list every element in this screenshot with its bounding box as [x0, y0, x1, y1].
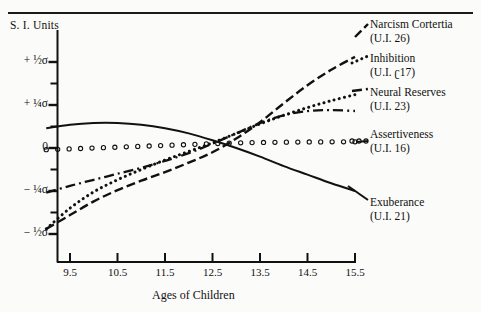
legend-ui-code: (U.I. 26): [370, 32, 453, 46]
series-marker: [284, 140, 288, 144]
y-axis-tick-label: − ¼σ: [6, 183, 48, 195]
legend-leader-line: [355, 24, 368, 37]
x-axis-ticks: [70, 253, 355, 262]
data-series-layer: [44, 57, 357, 229]
y-axis-tick-label: 0: [6, 140, 48, 152]
series-assertiveness: [44, 140, 357, 152]
legend-leader-line: [356, 141, 368, 142]
series-marker: [341, 140, 345, 144]
series-marker: [67, 147, 71, 151]
legend-entry-exuberance: Exuberance(U.I. 21): [370, 196, 424, 223]
x-axis-tick-label: 11.5: [145, 266, 185, 278]
series-inhibition: [46, 95, 355, 229]
series-marker: [136, 144, 140, 148]
series-marker: [101, 146, 105, 150]
legend-entry-neural-reserves: Neural Reserves(U.I. 23): [370, 86, 446, 113]
legend-ui-code: (U.I. 21): [370, 210, 424, 224]
legend-key-lines: [348, 24, 368, 200]
legend-ui-code: (U.I. ʗ17): [370, 66, 415, 80]
legend-label: Narcism Cortertia: [370, 18, 453, 30]
series-marker: [250, 141, 254, 145]
legend-label: Exuberance: [370, 196, 424, 208]
legend-label: Assertiveness: [370, 128, 433, 140]
series-marker: [296, 140, 300, 144]
legend-entry-narcism-cortertia: Narcism Cortertia(U.I. 26): [370, 18, 453, 45]
series-marker: [193, 142, 197, 146]
series-marker: [181, 143, 185, 147]
x-axis-tick-label: 12.5: [193, 266, 233, 278]
legend-ui-code: (U.I. 23): [370, 100, 446, 114]
x-axis-tick-label: 13.5: [240, 266, 280, 278]
series-marker: [159, 143, 163, 147]
series-marker: [147, 144, 151, 148]
legend-label: Neural Reserves: [370, 86, 446, 98]
y-axis-tick-label: + ½σ: [6, 54, 48, 66]
x-axis-tick-label: 15.5: [335, 266, 375, 278]
series-marker: [170, 143, 174, 147]
legend-entry-assertiveness: Assertiveness(U.I. 16): [370, 128, 433, 155]
series-marker: [330, 140, 334, 144]
x-axis-tick-label: 10.5: [98, 266, 138, 278]
series-marker: [90, 146, 94, 150]
legend-leader-line: [348, 186, 368, 200]
series-marker: [307, 140, 311, 144]
series-narcism-cortertia: [46, 57, 355, 229]
series-marker: [261, 140, 265, 144]
series-marker: [319, 140, 323, 144]
y-axis-tick-label: − ½σ: [6, 226, 48, 238]
series-marker: [273, 140, 277, 144]
x-axis-tick-label: 14.5: [288, 266, 328, 278]
legend-leader-line: [352, 89, 368, 91]
y-axis-tick-label: + ¼σ: [6, 97, 48, 109]
series-marker: [124, 145, 128, 149]
series-marker: [239, 141, 243, 145]
x-axis-tick-label: 9.5: [50, 266, 90, 278]
legend-entry-inhibition: Inhibition(U.I. ʗ17): [370, 52, 415, 79]
series-marker: [78, 146, 82, 150]
legend-label: Inhibition: [370, 52, 415, 64]
figure-panel: S. I. Units Ages of Children + ½σ+ ¼σ0− …: [0, 0, 481, 312]
legend-ui-code: (U.I. 16): [370, 142, 433, 156]
series-marker: [113, 145, 117, 149]
